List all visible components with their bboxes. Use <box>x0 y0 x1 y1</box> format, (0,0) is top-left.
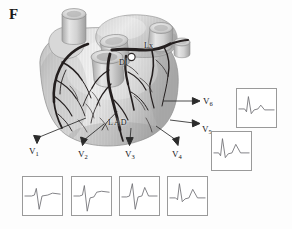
ecg-polyline-v5 <box>214 139 249 158</box>
ecg-box-v4 <box>167 176 208 216</box>
lead-label-v1-sub: 1 <box>36 150 39 157</box>
ecg-trace-v5 <box>212 132 251 170</box>
ecg-trace-v1 <box>23 177 62 215</box>
ecg-box-v3 <box>119 176 160 216</box>
lead-label-v3-sub: 3 <box>132 153 135 160</box>
ecg-polyline-v1 <box>25 188 60 209</box>
lead-label-v2-base: V <box>78 149 85 159</box>
ecg-box-v5 <box>211 131 252 171</box>
ecg-polyline-v2 <box>74 186 109 212</box>
lead-label-v3-base: V <box>125 149 132 159</box>
ecg-polyline-v3 <box>122 184 157 210</box>
arrow-v4 <box>156 126 179 146</box>
ecg-trace-v2 <box>72 177 111 215</box>
lead-label-v6-base: V <box>203 96 210 106</box>
ecg-polyline-v4 <box>170 184 205 202</box>
artery-label-lad: LAD <box>108 118 127 127</box>
figure-panel: F <box>0 0 292 229</box>
artery-label-lx: Lx <box>144 41 153 50</box>
lead-label-v4-sub: 4 <box>179 153 182 160</box>
arrow-v5 <box>170 120 200 127</box>
ecg-polyline-v6 <box>239 97 274 114</box>
lead-label-v2: V2 <box>78 149 88 159</box>
lead-label-v5-base: V <box>202 124 209 134</box>
lead-label-v6-sub: 6 <box>210 100 213 107</box>
lead-label-v6: V6 <box>203 96 213 106</box>
lead-label-v4: V4 <box>172 149 182 159</box>
ecg-box-v2 <box>71 176 112 216</box>
artery-label-di: DI <box>119 58 127 67</box>
ecg-trace-v6 <box>237 89 276 127</box>
ecg-trace-v3 <box>120 177 159 215</box>
lead-label-v1-base: V <box>29 146 36 156</box>
ecg-box-v1 <box>22 176 63 216</box>
ecg-trace-v4 <box>168 177 207 215</box>
ecg-box-v6 <box>236 88 277 128</box>
lead-label-v3: V3 <box>125 149 135 159</box>
lead-label-v1: V1 <box>29 146 39 156</box>
stenosis-marker <box>128 53 135 60</box>
lead-label-v4-base: V <box>172 149 179 159</box>
lead-label-v2-sub: 2 <box>85 153 88 160</box>
